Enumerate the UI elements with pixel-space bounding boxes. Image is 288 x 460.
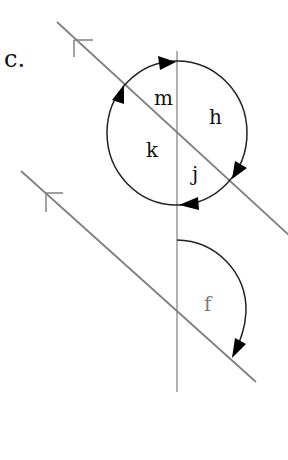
angle-label-k: k xyxy=(146,138,159,162)
part-label: c. xyxy=(4,45,25,73)
parallel-lines-diagram: c. m h k j f xyxy=(0,0,288,460)
angle-label-j: j xyxy=(190,162,198,186)
angle-label-h: h xyxy=(209,105,222,129)
angle-label-m: m xyxy=(154,86,173,110)
